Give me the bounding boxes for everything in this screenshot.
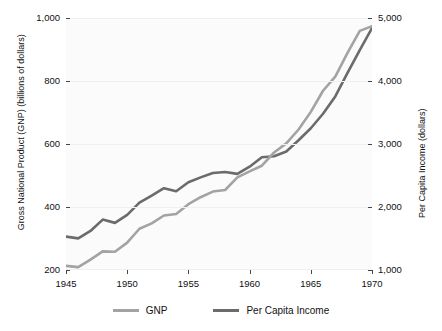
gridline-600 — [66, 144, 372, 145]
y-axis-right-tick-label: 2,000 — [378, 201, 422, 212]
y-axis-right-tickmark — [368, 144, 372, 145]
y-axis-left-tickmark — [66, 18, 70, 19]
y-axis-left-tick-label: 400 — [20, 201, 60, 212]
x-axis-tick-label: 1950 — [105, 278, 149, 289]
legend-swatch-per-capita-income — [213, 309, 239, 312]
x-axis-tick-label: 1955 — [166, 278, 210, 289]
x-axis-tick-label: 1945 — [44, 278, 88, 289]
gridline-400 — [66, 207, 372, 208]
y-axis-right-tick-label: 3,000 — [378, 138, 422, 149]
y-axis-left-tick-label: 200 — [20, 264, 60, 275]
y-axis-right-tickmark — [368, 207, 372, 208]
legend-item-gnp: GNP — [113, 305, 168, 316]
y-axis-left-tick-label: 1,000 — [20, 12, 60, 23]
gridline-1000 — [66, 18, 372, 19]
x-axis-tick-label: 1960 — [228, 278, 272, 289]
x-axis-tick-label: 1965 — [289, 278, 333, 289]
y-axis-left-tick-label: 800 — [20, 75, 60, 86]
legend-label-gnp: GNP — [146, 305, 168, 316]
legend-item-per-capita-income: Per Capita Income — [213, 305, 329, 316]
y-axis-right-tick-label: 1,000 — [378, 264, 422, 275]
x-axis-tick-label: 1970 — [350, 278, 394, 289]
x-axis-tickmark — [372, 270, 373, 274]
legend-label-per-capita-income: Per Capita Income — [246, 305, 329, 316]
x-axis-tickmark — [66, 270, 67, 274]
x-axis-tickmark — [127, 270, 128, 274]
y-axis-right-tick-label: 4,000 — [378, 75, 422, 86]
y-axis-left-tickmark — [66, 144, 70, 145]
y-axis-right-tick-label: 5,000 — [378, 12, 422, 23]
legend-swatch-gnp — [113, 309, 139, 312]
x-axis-tickmark — [311, 270, 312, 274]
y-axis-left-tickmark — [66, 81, 70, 82]
gridline-200 — [66, 269, 372, 270]
y-axis-left-tick-label: 600 — [20, 138, 60, 149]
line-gnp — [66, 26, 372, 267]
x-axis-tickmark — [188, 270, 189, 274]
y-axis-right-title: Per Capita Income (dollars) — [417, 93, 428, 233]
gridline-800 — [66, 81, 372, 82]
y-axis-right-tickmark — [368, 18, 372, 19]
x-axis-tickmark — [250, 270, 251, 274]
y-axis-right-tickmark — [368, 81, 372, 82]
plot-area — [66, 18, 372, 270]
y-axis-left-tickmark — [66, 207, 70, 208]
chart-legend: GNP Per Capita Income — [0, 305, 442, 316]
chart-figure: Gross National Product (GNP) (billions o… — [0, 0, 442, 331]
